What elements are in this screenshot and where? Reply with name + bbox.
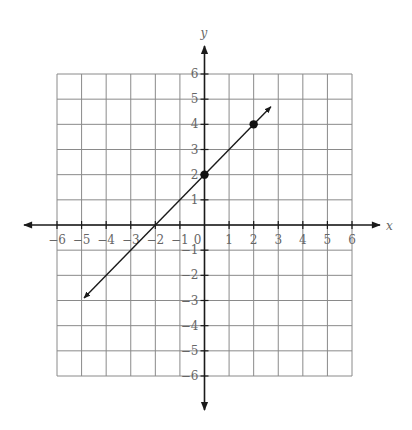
x-tick-label: 1: [225, 233, 233, 247]
x-axis-label: x: [386, 219, 393, 233]
data-point: [200, 170, 208, 178]
y-tick-label: 1: [191, 193, 199, 207]
y-tick-label: 5: [191, 92, 199, 106]
data-series: [84, 107, 271, 298]
x-tick-label: 3: [274, 233, 282, 247]
x-tick-label: 2: [250, 233, 258, 247]
x-tick-label: −5: [73, 233, 91, 247]
y-tick-label: −5: [181, 344, 199, 358]
y-tick-label: −6: [181, 369, 199, 383]
y-tick-label: −2: [181, 268, 199, 282]
axes: xy: [24, 26, 393, 410]
y-tick-label: 2: [191, 168, 199, 182]
coordinate-plane: xy −6−5−4−3−2−10123456−6−5−4−3−2−1123456: [0, 0, 412, 430]
y-tick-label: −1: [181, 243, 199, 257]
data-line: [84, 107, 271, 298]
x-tick-label: 6: [348, 233, 356, 247]
y-axis-label: y: [200, 26, 208, 40]
data-point: [249, 120, 257, 128]
x-tick-label: −4: [97, 233, 115, 247]
x-tick-label: −3: [122, 233, 140, 247]
y-tick-label: −4: [181, 319, 199, 333]
x-tick-label: 4: [299, 233, 307, 247]
y-tick-label: 4: [191, 117, 199, 131]
y-tick-label: −3: [181, 294, 199, 308]
x-tick-label: −6: [48, 233, 66, 247]
x-tick-label: −2: [146, 233, 164, 247]
x-tick-label: 5: [324, 233, 332, 247]
y-tick-label: 3: [191, 143, 199, 157]
y-tick-label: 6: [191, 67, 199, 81]
